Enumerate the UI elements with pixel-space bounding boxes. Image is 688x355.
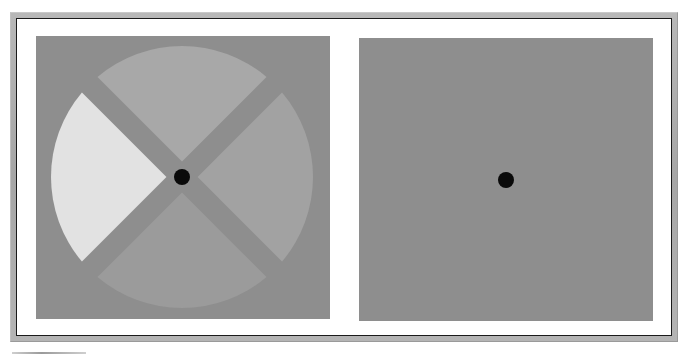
segmented-disk bbox=[36, 36, 330, 319]
fixation-dot bbox=[174, 169, 190, 185]
fixation-dot bbox=[498, 172, 514, 188]
caption-rule bbox=[12, 352, 86, 354]
left-stimulus-panel bbox=[36, 36, 330, 319]
right-stimulus-panel bbox=[359, 38, 653, 321]
uniform-field bbox=[359, 38, 653, 321]
